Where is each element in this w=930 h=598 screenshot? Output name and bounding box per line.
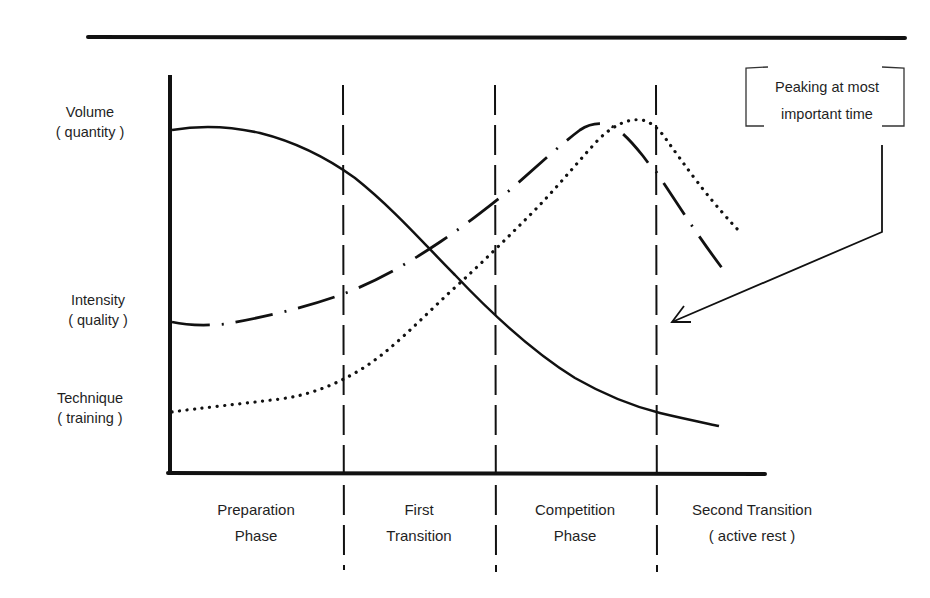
phase-competition-line2: Phase [495,523,655,549]
y-label-intensity-title: Intensity [38,290,158,310]
divider-competition-second [656,85,657,572]
y-label-volume: Volume ( quantity ) [30,102,150,142]
phase-first-line1: First [339,497,499,523]
phase-first-line2: Transition [339,523,499,549]
phase-preparation-line1: Preparation [176,497,336,523]
y-label-technique-title: Technique [30,388,150,408]
phase-second-line1: Second Transition [672,497,832,523]
callout-line1: Peaking at most [752,74,902,101]
volume-curve [172,127,719,426]
top-rule [88,37,905,38]
phase-second-line2: ( active rest ) [672,523,832,549]
callout-line2: important time [752,101,902,128]
y-label-intensity: Intensity ( quality ) [38,290,158,330]
phase-label-first-transition: First Transition [339,497,499,549]
intensity-curve [172,124,722,325]
phase-label-second-transition: Second Transition ( active rest ) [672,497,832,549]
technique-curve [172,120,740,412]
y-label-technique: Technique ( training ) [30,388,150,428]
phase-label-competition: Competition Phase [495,497,655,549]
phase-competition-line1: Competition [495,497,655,523]
phase-label-preparation: Preparation Phase [176,497,336,549]
y-label-intensity-sub: ( quality ) [38,310,158,330]
y-label-technique-sub: ( training ) [30,408,150,428]
y-label-volume-sub: ( quantity ) [30,122,150,142]
phase-preparation-line2: Phase [176,523,336,549]
callout-text: Peaking at most important time [752,74,902,128]
y-label-volume-title: Volume [30,102,150,122]
x-axis [168,473,765,474]
callout-arrow [672,145,882,322]
